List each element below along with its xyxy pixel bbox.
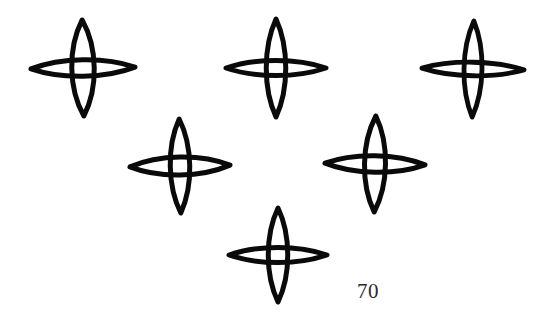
star-horizontal-lens <box>226 61 326 76</box>
star-horizontal-lens <box>229 248 327 263</box>
plate-number-label: 70 <box>357 281 379 302</box>
star-motif <box>30 19 136 117</box>
star-motif <box>324 115 426 213</box>
star-horizontal-lens <box>31 59 135 77</box>
figure-plate: 70 <box>0 0 548 322</box>
star-vertical-lens <box>364 116 387 212</box>
star-horizontal-lens <box>325 155 425 173</box>
star-horizontal-lens <box>422 61 524 76</box>
star-motif <box>129 118 231 214</box>
star-vertical-lens <box>266 19 286 117</box>
star-motif <box>421 20 525 118</box>
star-motif-drawing <box>0 0 548 322</box>
star-vertical-lens <box>71 20 95 116</box>
star-horizontal-lens <box>130 156 230 176</box>
star-vertical-lens <box>268 208 288 302</box>
star-motif <box>226 19 326 117</box>
star-vertical-lens <box>169 119 190 213</box>
star-motif <box>229 208 327 302</box>
star-vertical-lens <box>463 21 483 117</box>
